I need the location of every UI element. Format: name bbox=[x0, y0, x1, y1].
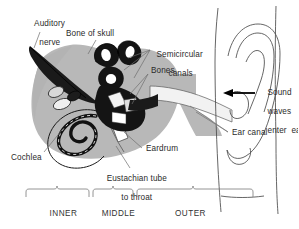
section-label-middle-ear: MIDDLE EAR bbox=[89, 199, 137, 229]
ear-anatomy-diagram: Auditory nerve Bone of skull Semicircula… bbox=[0, 0, 298, 229]
section-outer-line2: EAR bbox=[181, 228, 199, 229]
label-sound-waves-line2: waves bbox=[268, 107, 292, 116]
label-sound-waves-line1: Sound bbox=[268, 88, 292, 97]
section-middle-line2: EAR bbox=[109, 228, 127, 229]
label-ear-canal: Ear canal bbox=[232, 128, 268, 138]
label-auditory-nerve-line2: nerve bbox=[39, 38, 60, 47]
label-bone-of-skull: Bone of skull bbox=[66, 29, 114, 39]
label-sound-waves-line3: enter ear bbox=[268, 126, 299, 135]
section-middle-line1: MIDDLE bbox=[102, 209, 136, 218]
section-label-inner-ear: INNER EAR bbox=[27, 199, 89, 229]
label-auditory-nerve-line1: Auditory bbox=[34, 19, 65, 28]
section-inner-line2: EAR bbox=[54, 228, 72, 229]
inner-bracket-icon bbox=[26, 186, 89, 197]
section-label-outer-ear: OUTER EAR bbox=[161, 199, 209, 229]
label-bones: Bones bbox=[151, 66, 175, 76]
label-semicircular-canals: Semicircular canals bbox=[147, 40, 203, 88]
label-semicircular-canals-line1: Semicircular bbox=[157, 50, 203, 59]
label-cochlea: Cochlea bbox=[11, 153, 42, 163]
section-inner-line1: INNER bbox=[50, 209, 78, 218]
sound-arrow-icon bbox=[223, 89, 255, 97]
label-eustachian-tube-line1: Eustachian tube bbox=[107, 174, 167, 183]
label-eardrum: Eardrum bbox=[146, 144, 178, 154]
section-outer-line1: OUTER bbox=[175, 209, 206, 218]
